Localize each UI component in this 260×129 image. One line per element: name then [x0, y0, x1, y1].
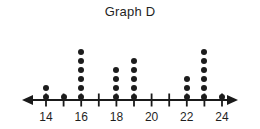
data-dot: [131, 58, 137, 64]
data-dot: [184, 85, 190, 91]
data-dot: [201, 85, 207, 91]
data-dot: [78, 58, 84, 64]
axis-arrow-left-icon: [22, 95, 33, 105]
data-dot: [201, 67, 207, 73]
data-dot: [61, 94, 67, 100]
data-dot: [131, 76, 137, 82]
plot-area: 141618202224: [0, 0, 260, 129]
dot-stack: [57, 91, 71, 100]
data-dot: [78, 67, 84, 73]
data-dot: [113, 67, 119, 73]
axis-tick-label: 24: [207, 110, 237, 124]
data-dot: [78, 76, 84, 82]
dot-plot-figure: Graph D 141618202224: [0, 0, 260, 129]
data-dot: [43, 94, 49, 100]
data-dot: [219, 94, 225, 100]
data-dot: [113, 94, 119, 100]
data-dot: [201, 58, 207, 64]
data-dot: [113, 85, 119, 91]
dot-stack: [39, 82, 53, 100]
axis-tick-label: 14: [31, 110, 61, 124]
axis-tick-label: 20: [137, 110, 167, 124]
data-dot: [43, 85, 49, 91]
data-dot: [131, 67, 137, 73]
data-dot: [201, 94, 207, 100]
data-dot: [201, 49, 207, 55]
data-dot: [78, 94, 84, 100]
axis-tick-label: 22: [172, 110, 202, 124]
data-dot: [184, 76, 190, 82]
data-dot: [78, 85, 84, 91]
dot-stack: [74, 46, 88, 100]
dot-stack: [197, 46, 211, 100]
data-dot: [78, 49, 84, 55]
dot-stack: [180, 73, 194, 100]
data-dot: [131, 85, 137, 91]
data-dot: [184, 94, 190, 100]
dot-stack: [215, 91, 229, 100]
data-dot: [201, 76, 207, 82]
data-dot: [131, 94, 137, 100]
data-dot: [113, 76, 119, 82]
axis-tick-label: 16: [66, 110, 96, 124]
dot-stack: [109, 64, 123, 100]
axis-tick-label: 18: [101, 110, 131, 124]
dot-stack: [127, 55, 141, 100]
